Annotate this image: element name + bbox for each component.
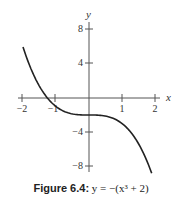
- x-tick-label: 2: [153, 103, 158, 114]
- x-tick-label: 1: [120, 103, 125, 114]
- y-tick-label: 8: [78, 23, 83, 34]
- caption-separator: :: [85, 182, 89, 194]
- chart-plot: −2 −1 1 2 8 4 −4 −8 x y: [0, 0, 182, 182]
- y-tick-label: −4: [72, 126, 83, 137]
- x-axis-label: x: [165, 91, 171, 103]
- figure-caption: Figure 6.4: y = −(x³ + 2): [0, 182, 182, 194]
- caption-equation: y = −(x³ + 2): [92, 182, 149, 194]
- x-tick-label: −2: [17, 103, 28, 114]
- y-tick-label: 4: [78, 57, 83, 68]
- y-axis-label: y: [85, 8, 91, 20]
- figure-label: Figure 6.4: [33, 182, 85, 194]
- function-curve: [23, 47, 152, 173]
- y-tick-label: −8: [72, 160, 83, 171]
